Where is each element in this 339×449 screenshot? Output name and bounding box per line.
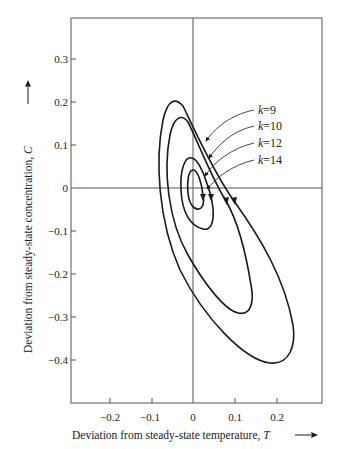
arrow-down-icon: [200, 194, 206, 201]
y-tick-label: −0.1: [48, 225, 68, 237]
direction-arrows: [200, 194, 237, 205]
x-tick-label: −0.2: [100, 411, 120, 423]
y-tick-label: 0.1: [54, 139, 68, 151]
x-tick-label: 0.2: [270, 411, 284, 423]
y-axis-title: Deviation from steady-state concentratio…: [22, 146, 35, 353]
x-tick-label: 0: [190, 411, 196, 423]
leader-line-k10: [209, 126, 254, 158]
label-k12: k=12: [258, 136, 282, 150]
curve-k10: [167, 118, 252, 314]
arrow-down-icon: [208, 194, 214, 201]
y-tick-label: 0.2: [54, 96, 68, 108]
curve-k14: [188, 170, 204, 209]
y-tick-label: 0.3: [54, 53, 68, 65]
phase-plane-chart: 0.3 0.2 0.1 0 −0.1 −0.2 −0.3 −0.4 −0.2 −…: [0, 0, 339, 449]
label-k10: k=10: [258, 119, 282, 133]
x-tick-label: −0.1: [140, 411, 160, 423]
label-k14: k=14: [258, 153, 282, 167]
label-k9: k=9: [258, 103, 276, 117]
y-tick-label: −0.4: [48, 354, 68, 366]
y-tick-label: −0.2: [48, 268, 68, 280]
y-axis-ticks: [71, 59, 76, 360]
x-tick-label: 0.1: [228, 411, 242, 423]
x-axis-tick-labels: −0.2 −0.1 0 0.1 0.2: [100, 411, 284, 423]
plot-frame: [71, 18, 322, 403]
y-tick-label: 0: [63, 182, 69, 194]
leader-line-k12: [205, 143, 254, 176]
x-axis-title: Deviation from steady-state temperature,…: [72, 429, 271, 442]
y-tick-label: −0.3: [48, 311, 68, 323]
y-axis-arrow-icon: [25, 80, 31, 104]
y-axis-tick-labels: 0.3 0.2 0.1 0 −0.1 −0.2 −0.3 −0.4: [48, 53, 68, 366]
x-axis-arrow-icon: [295, 432, 318, 438]
